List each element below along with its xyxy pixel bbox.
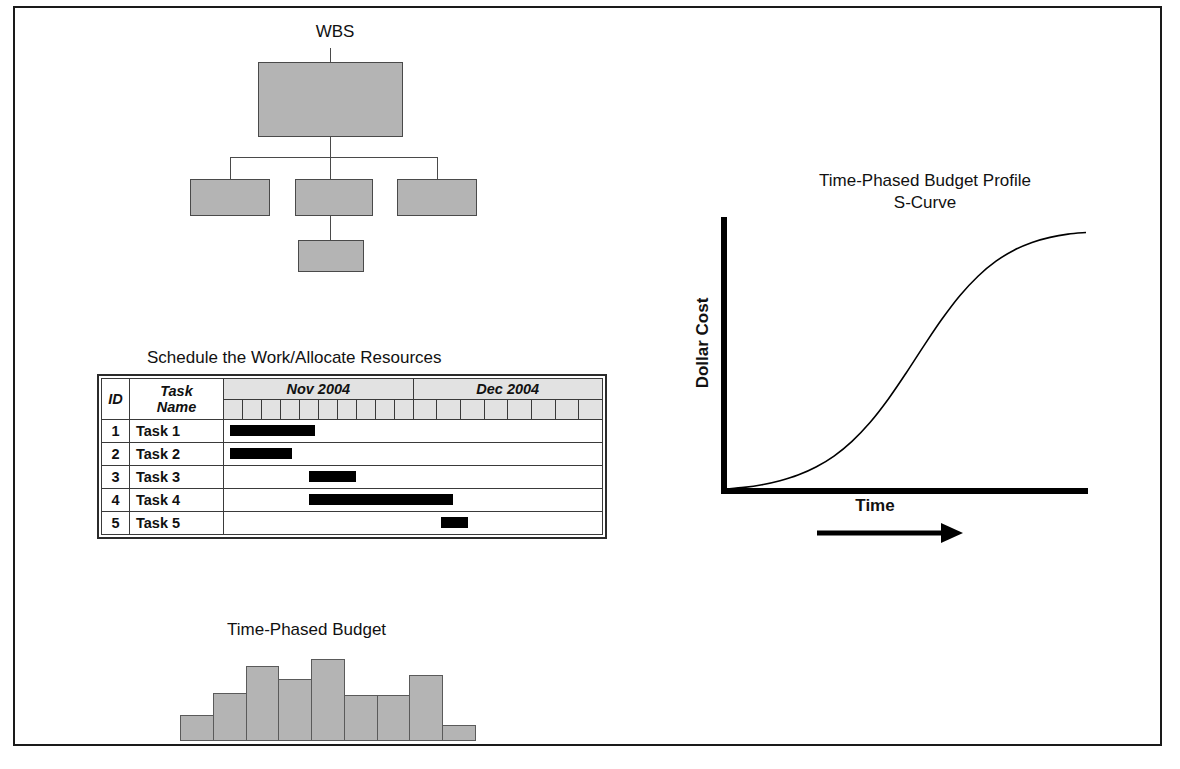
gantt-day-cells-nov [224,400,413,419]
gantt-day-cell [395,400,413,419]
gantt-day-strip-dec [413,400,603,420]
wbs-node-child-2 [295,179,373,216]
gantt-day-cell [414,400,438,419]
gantt-day-cell [224,400,243,419]
gantt-day-cell [262,400,281,419]
wbs-connector-stem [330,137,331,179]
gantt-month-header-dec: Dec 2004 [413,379,603,400]
gantt-day-cell [281,400,300,419]
s-curve-title-line2: S-Curve [755,192,1095,214]
gantt-day-cell [437,400,461,419]
gantt-header-row-months: ID Task Name Nov 2004 Dec 2004 [102,379,603,400]
gantt-task-bar[interactable] [309,471,356,482]
gantt-month-header-nov: Nov 2004 [224,379,414,400]
gantt-task-bar[interactable] [230,425,315,436]
gantt-row-task-name: Task 5 [130,512,224,535]
s-curve-x-axis-label: Time [795,496,955,516]
table-row[interactable]: 4Task 4 [102,489,603,512]
gantt-chart: ID Task Name Nov 2004 Dec 2004 [97,374,607,539]
gantt-row-task-name: Task 1 [130,420,224,443]
wbs-diagram: WBS [175,22,495,282]
schedule-title: Schedule the Work/Allocate Resources [97,348,607,368]
gantt-col-header-task-name-line2: Name [130,399,223,415]
gantt-day-cell [300,400,319,419]
gantt-row-id: 1 [102,420,130,443]
gantt-day-strip-nov [224,400,414,420]
gantt-row-id: 2 [102,443,130,466]
gantt-day-cell [376,400,395,419]
gantt-row-track [224,443,603,466]
gantt-table: ID Task Name Nov 2004 Dec 2004 [101,378,603,535]
table-row[interactable]: 5Task 5 [102,512,603,535]
gantt-task-bar[interactable] [309,494,453,505]
budget-bar [180,715,214,741]
wbs-title: WBS [175,22,495,42]
budget-bar [246,666,280,741]
gantt-task-bar[interactable] [230,448,292,459]
gantt-day-cell [243,400,262,419]
figure-frame: WBS Schedule the Work/Allocate Resources [13,6,1162,746]
wbs-connector-child-1 [230,157,231,179]
gantt-day-cell [485,400,509,419]
gantt-row-track [224,466,603,489]
table-row[interactable]: 2Task 2 [102,443,603,466]
s-curve-title-line1: Time-Phased Budget Profile [755,170,1095,192]
gantt-row-track [224,512,603,535]
wbs-node-child-3 [397,179,477,216]
time-arrow-icon [815,520,965,546]
gantt-row-id: 3 [102,466,130,489]
budget-bar [311,659,345,741]
gantt-row-id: 5 [102,512,130,535]
wbs-node-root [258,62,403,137]
wbs-connector-child-3 [437,157,438,179]
gantt-day-cell [461,400,485,419]
s-curve-chart: Time-Phased Budget Profile S-Curve Dolla… [675,158,1115,558]
gantt-body: 1Task 12Task 23Task 34Task 45Task 5 [102,420,603,535]
budget-bar [377,695,411,741]
gantt-row-id: 4 [102,489,130,512]
gantt-day-cell [579,400,602,419]
gantt-day-cell [338,400,357,419]
budget-bar [344,695,378,741]
wbs-node-grandchild [298,240,364,272]
gantt-row-task-name: Task 2 [130,443,224,466]
budget-bar [409,675,443,741]
gantt-row-task-name: Task 4 [130,489,224,512]
budget-bar [213,693,247,741]
budget-bar [278,679,312,741]
gantt-day-cells-dec [414,400,603,419]
table-row[interactable]: 3Task 3 [102,466,603,489]
gantt-row-track [224,420,603,443]
wbs-connector-title [330,48,331,62]
wbs-connector-bus [230,157,437,158]
budget-bar [442,725,476,741]
gantt-day-cell [556,400,580,419]
table-row[interactable]: 1Task 1 [102,420,603,443]
wbs-node-child-1 [190,179,270,216]
s-curve-plot [720,213,1090,503]
budget-bars [180,653,475,741]
s-curve-title: Time-Phased Budget Profile S-Curve [755,170,1095,214]
gantt-col-header-task-name-line1: Task [130,383,223,399]
schedule-panel: Schedule the Work/Allocate Resources ID … [97,348,607,539]
gantt-day-cell [319,400,338,419]
wbs-connector-grandchild [330,216,331,240]
gantt-task-bar[interactable] [441,517,467,528]
s-curve-line [726,233,1086,489]
s-curve-y-axis-label: Dollar Cost [693,283,713,403]
gantt-day-cell [532,400,556,419]
time-phased-budget-chart: Time-Phased Budget [165,620,505,750]
gantt-col-header-task-name: Task Name [130,379,224,420]
gantt-day-cell [508,400,532,419]
gantt-col-header-id: ID [102,379,130,420]
gantt-row-task-name: Task 3 [130,466,224,489]
budget-title: Time-Phased Budget [165,620,465,640]
gantt-row-track [224,489,603,512]
gantt-day-cell [357,400,376,419]
